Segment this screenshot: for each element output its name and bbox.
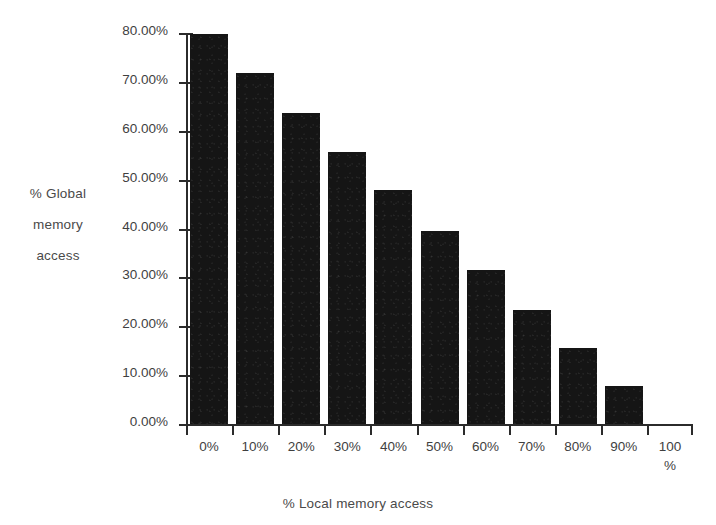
y-tick-label-10: 10.00% xyxy=(122,365,168,380)
x-tick-10 xyxy=(647,424,649,435)
x-tick-9 xyxy=(601,424,603,435)
bar-7 xyxy=(513,310,551,424)
bar-2 xyxy=(282,113,320,424)
bar-chart-figure: % Global memory access 80.00% 70.00% 60.… xyxy=(0,0,716,525)
x-tick-6 xyxy=(463,424,465,435)
x-tick-4 xyxy=(370,424,372,435)
x-tick-3 xyxy=(324,424,326,435)
y-tick-label-70: 70.00% xyxy=(122,72,168,87)
x-tick-label-6: 60% xyxy=(463,437,509,456)
y-tick-label-60: 60.00% xyxy=(122,121,168,136)
bar-1 xyxy=(236,73,274,424)
y-axis-title-line-3: access xyxy=(6,240,110,271)
x-tick-5 xyxy=(417,424,419,435)
x-tick-1 xyxy=(232,424,234,435)
x-tick-label-9: 90% xyxy=(601,437,647,456)
bar-4 xyxy=(374,190,412,424)
plot-area: 80.00% 70.00% 60.00% 50.00% 40.00% 30.00… xyxy=(186,33,693,424)
x-tick-11 xyxy=(691,424,693,435)
x-tick-label-8: 80% xyxy=(555,437,601,456)
y-tick-label-50: 50.00% xyxy=(122,170,168,185)
x-tick-label-10-line-2: % xyxy=(664,458,676,473)
x-tick-2 xyxy=(278,424,280,435)
x-tick-label-10: 100 % xyxy=(647,437,693,475)
x-tick-7 xyxy=(509,424,511,435)
x-tick-label-10-line-1: 100 xyxy=(659,439,682,454)
y-tick-label-80: 80.00% xyxy=(122,23,168,38)
x-tick-label-7: 70% xyxy=(509,437,555,456)
y-tick-label-40: 40.00% xyxy=(122,219,168,234)
bar-6 xyxy=(467,270,505,425)
x-tick-8 xyxy=(555,424,557,435)
bar-9 xyxy=(605,386,643,424)
x-tick-label-0: 0% xyxy=(186,437,232,456)
x-axis-line xyxy=(186,424,693,426)
bar-5 xyxy=(421,231,459,424)
x-tick-label-5: 50% xyxy=(417,437,463,456)
bar-8 xyxy=(559,348,597,424)
y-axis-title: % Global memory access xyxy=(6,178,110,271)
x-tick-label-4: 40% xyxy=(370,437,416,456)
y-tick-label-0: 0.00% xyxy=(130,414,168,429)
y-tick-label-30: 30.00% xyxy=(122,267,168,282)
y-axis-title-line-2: memory xyxy=(6,209,110,240)
y-tick-label-20: 20.00% xyxy=(122,316,168,331)
x-axis-title: % Local memory access xyxy=(0,496,716,511)
x-tick-0 xyxy=(186,424,188,435)
bar-0 xyxy=(190,34,228,424)
x-tick-label-2: 20% xyxy=(278,437,324,456)
y-axis-title-line-1: % Global xyxy=(6,178,110,209)
bar-3 xyxy=(328,152,366,424)
x-tick-label-3: 30% xyxy=(324,437,370,456)
x-tick-label-1: 10% xyxy=(232,437,278,456)
